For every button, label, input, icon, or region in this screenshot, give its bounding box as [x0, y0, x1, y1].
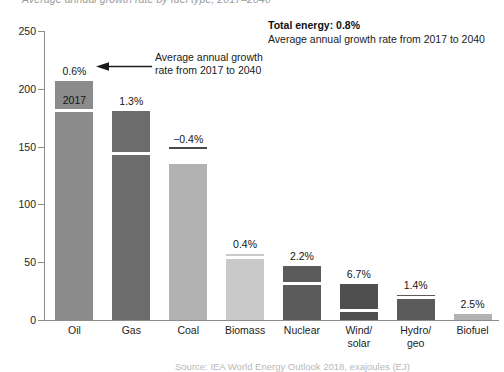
bar	[340, 284, 378, 320]
y-axis-tick-label: 100	[18, 198, 36, 210]
bar	[169, 164, 207, 320]
bar	[55, 81, 93, 320]
bar-group: 1.3%	[112, 31, 150, 320]
growth-rate-label: 1.3%	[119, 95, 143, 107]
x-axis-label: Biomass	[225, 324, 265, 337]
bar	[112, 111, 150, 320]
y-axis-tick	[38, 147, 44, 148]
bar-group: 0.4%	[226, 31, 264, 320]
y-axis-tick-label: 0	[30, 314, 36, 326]
bar	[454, 314, 492, 320]
y-axis-tick	[38, 320, 44, 321]
x-axis-line	[44, 320, 499, 321]
y-axis-line	[44, 31, 45, 320]
x-axis-label: Nuclear	[284, 324, 320, 337]
bar-group: 1.4%	[397, 31, 435, 320]
y-axis-tick-label: 50	[24, 256, 36, 268]
growth-rate-label: 1.4%	[404, 279, 428, 291]
x-axis-label: Biofuel	[457, 324, 489, 337]
y-axis-tick-label: 150	[18, 141, 36, 153]
bar-group: 0.6%2017	[55, 31, 93, 320]
growth-rate-label: 0.4%	[233, 238, 257, 250]
x-axis-label: Wind/solar	[345, 324, 372, 349]
x-axis-labels: OilGasCoalBiomassNuclearWind/solarHydro/…	[44, 324, 499, 364]
bar-2017-label: 2017	[63, 94, 86, 106]
y-axis-tick	[38, 204, 44, 205]
bar-2017-separator	[397, 296, 435, 299]
x-axis-label: Coal	[177, 324, 199, 337]
growth-rate-label: −0.4%	[173, 133, 203, 145]
x-axis-label: Oil	[68, 324, 81, 337]
growth-rate-label: 2.5%	[461, 298, 485, 310]
footer-source-note: Source: IEA World Energy Outlook 2018, e…	[175, 361, 410, 372]
bar-2017-separator	[112, 152, 150, 155]
bar-2017-separator	[340, 309, 378, 312]
bar-2017-separator	[55, 109, 93, 112]
bar-2017-separator	[283, 282, 321, 285]
y-axis-tick-label: 250	[18, 25, 36, 37]
bar-2017-separator	[226, 256, 264, 259]
bar-group: −0.4%	[169, 31, 207, 320]
bar	[226, 254, 264, 320]
chart-title: Average annual growth rate by fuel type,…	[22, 0, 271, 5]
growth-rate-label: 6.7%	[347, 268, 371, 280]
x-axis-label: Gas	[122, 324, 141, 337]
growth-rate-label: 2.2%	[290, 250, 314, 262]
y-axis-labels: 050100150200250	[0, 31, 44, 321]
bar-2017-marker	[169, 147, 207, 149]
x-axis-label: Hydro/geo	[400, 324, 431, 349]
bar-group: 6.7%	[340, 31, 378, 320]
bar	[283, 266, 321, 320]
y-axis-tick	[38, 262, 44, 263]
growth-rate-label: 0.6%	[62, 65, 86, 77]
plot-area: 0.6%20171.3%−0.4%0.4%2.2%6.7%1.4%2.5%	[44, 31, 499, 320]
y-axis-tick-label: 200	[18, 83, 36, 95]
bar	[397, 295, 435, 320]
bar-group: 2.2%	[283, 31, 321, 320]
bar-group: 2.5%	[454, 31, 492, 320]
y-axis-tick	[38, 89, 44, 90]
y-axis-tick	[38, 31, 44, 32]
